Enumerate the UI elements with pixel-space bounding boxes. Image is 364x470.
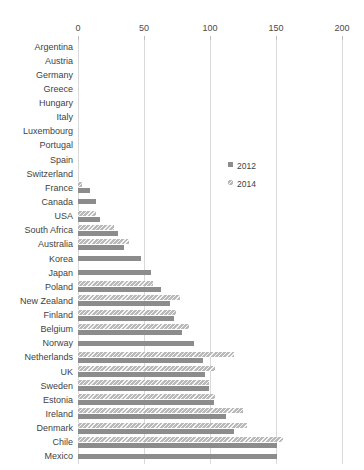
bar-2012 (78, 188, 90, 193)
bar-2012 (78, 454, 277, 459)
bar-2012 (78, 316, 174, 321)
chart-row: South Africa (78, 224, 342, 238)
bar-2012 (78, 330, 182, 335)
legend-label: 2012 (237, 161, 256, 171)
bar-2014 (78, 310, 176, 315)
x-tick-label-200: 200 (334, 22, 349, 34)
x-tick-label-50: 50 (139, 22, 149, 34)
bar-2014 (78, 225, 114, 230)
bar-2014 (78, 182, 82, 187)
legend-item-2012[interactable]: 2012 (228, 160, 256, 178)
category-label: South Africa (24, 227, 73, 234)
chart-row: Japan (78, 266, 342, 280)
category-label: Germany (36, 72, 73, 79)
category-label: Hungary (39, 100, 73, 107)
bar-2012 (78, 199, 96, 204)
x-axis-tick-labels: 050100150200 (0, 22, 364, 34)
category-label: UK (60, 369, 73, 376)
bar-2012 (78, 270, 151, 275)
hatched-gray-swatch (228, 180, 233, 185)
category-label: USA (54, 213, 73, 220)
chart-row: Germany (78, 68, 342, 82)
category-label: Japan (48, 270, 73, 277)
category-label: Austria (45, 58, 73, 65)
bar-2014 (78, 295, 180, 300)
category-label: Spain (50, 157, 73, 164)
bar-2012 (78, 301, 170, 306)
chart-row: France (78, 181, 342, 195)
bar-2012 (78, 341, 194, 346)
chart-row: Chile (78, 436, 342, 450)
category-label: Norway (42, 340, 73, 347)
bar-2012 (78, 372, 205, 377)
chart-row: Canada (78, 195, 342, 209)
category-label: Greece (43, 86, 73, 93)
plot-area: ArgentinaAustriaGermanyGreeceHungaryItal… (78, 40, 342, 464)
category-label: New Zealand (20, 298, 73, 305)
category-label: Korea (49, 256, 73, 263)
bar-2014 (78, 211, 96, 216)
bar-2012 (78, 400, 214, 405)
category-label: Switzerland (26, 171, 73, 178)
category-label: Denmark (36, 425, 73, 432)
bar-2014 (78, 394, 215, 399)
bar-2012 (78, 443, 277, 448)
bar-2012 (78, 358, 203, 363)
gridline-200 (342, 40, 343, 464)
bar-2014 (78, 239, 129, 244)
chart-row: Belgium (78, 323, 342, 337)
category-label: Poland (45, 284, 73, 291)
chart-row: Norway (78, 337, 342, 351)
bar-2014 (78, 324, 189, 329)
x-tick-label-150: 150 (268, 22, 283, 34)
chart-row: Portugal (78, 139, 342, 153)
bar-2012 (78, 287, 161, 292)
chart-row: Finland (78, 309, 342, 323)
bar-chart: 050100150200 ArgentinaAustriaGermanyGree… (0, 0, 364, 470)
chart-row: Denmark (78, 422, 342, 436)
category-label: Sweden (40, 383, 73, 390)
category-label: Finland (43, 312, 73, 319)
chart-title (0, 0, 364, 2)
category-label: Luxembourg (23, 128, 73, 135)
category-label: Belgium (40, 326, 73, 333)
legend-label: 2014 (237, 179, 256, 189)
bar-2014 (78, 408, 243, 413)
category-label: Canada (41, 199, 73, 206)
category-label: Mexico (44, 453, 73, 460)
bar-2014 (78, 281, 153, 286)
bar-2014 (78, 437, 283, 442)
chart-row: Netherlands (78, 351, 342, 365)
chart-row: Switzerland (78, 167, 342, 181)
category-label: Ireland (45, 411, 73, 418)
bar-2014 (78, 380, 209, 385)
solid-gray-swatch (228, 162, 233, 167)
chart-row: Australia (78, 238, 342, 252)
bar-2012 (78, 231, 118, 236)
chart-row: Spain (78, 153, 342, 167)
category-label: Portugal (39, 142, 73, 149)
category-label: Australia (38, 241, 73, 248)
bar-2014 (78, 423, 247, 428)
category-label: Italy (56, 114, 73, 121)
bar-2012 (78, 256, 141, 261)
chart-row: Hungary (78, 97, 342, 111)
x-tick-200 (342, 36, 343, 40)
legend-item-2014[interactable]: 2014 (228, 178, 256, 196)
chart-row: New Zealand (78, 294, 342, 308)
bar-2014 (78, 352, 234, 357)
category-label: Estonia (43, 397, 73, 404)
x-tick-label-0: 0 (75, 22, 80, 34)
category-label: Chile (52, 439, 73, 446)
chart-row: Estonia (78, 393, 342, 407)
chart-legend: 20122014 (228, 160, 256, 196)
bar-2014 (78, 366, 215, 371)
category-label: France (45, 185, 73, 192)
bar-2012 (78, 245, 124, 250)
chart-row: Italy (78, 111, 342, 125)
chart-row: Sweden (78, 379, 342, 393)
chart-row: USA (78, 210, 342, 224)
bar-2012 (78, 217, 100, 222)
chart-row: UK (78, 365, 342, 379)
bar-2012 (78, 386, 209, 391)
